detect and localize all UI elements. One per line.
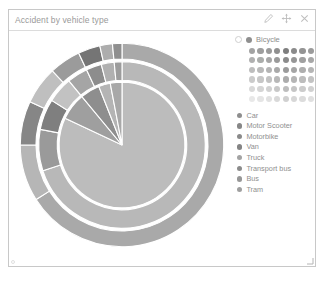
palette-swatch[interactable] bbox=[298, 46, 306, 56]
palette-swatch-dot bbox=[257, 86, 263, 92]
palette-swatch[interactable] bbox=[256, 75, 264, 85]
palette-swatch-dot bbox=[283, 48, 289, 54]
sunburst-segment[interactable] bbox=[114, 62, 122, 81]
sunburst-ring-inner bbox=[59, 82, 185, 208]
palette-swatch-dot bbox=[257, 48, 263, 54]
palette-swatch[interactable] bbox=[282, 56, 290, 66]
legend-item[interactable]: Bus bbox=[236, 174, 316, 185]
legend-item[interactable]: Car bbox=[236, 110, 316, 121]
legend-item[interactable]: Truck bbox=[236, 152, 316, 163]
color-palette-grid[interactable] bbox=[248, 46, 315, 104]
palette-swatch-dot bbox=[274, 67, 280, 73]
palette-swatch[interactable] bbox=[248, 94, 256, 104]
palette-swatch[interactable] bbox=[256, 65, 264, 75]
legend-item[interactable]: Tram bbox=[236, 184, 316, 195]
palette-swatch[interactable] bbox=[298, 56, 306, 66]
palette-swatch-dot bbox=[257, 96, 263, 102]
palette-swatch[interactable] bbox=[256, 94, 264, 104]
palette-swatch[interactable] bbox=[282, 94, 290, 104]
palette-swatch-dot bbox=[291, 67, 297, 73]
legend-item[interactable]: Motor Scooter bbox=[236, 121, 316, 132]
chart-side-rail: Bicycle CarMotor ScooterMotorbikeVanTruc… bbox=[235, 31, 316, 267]
palette-swatch-dot bbox=[299, 48, 305, 54]
palette-swatch[interactable] bbox=[256, 84, 264, 94]
palette-swatch-dot bbox=[266, 76, 272, 82]
legend-color-dot bbox=[237, 176, 242, 181]
palette-swatch-dot bbox=[249, 76, 255, 82]
palette-swatch-dot bbox=[283, 57, 289, 63]
palette-swatch[interactable] bbox=[282, 84, 290, 94]
palette-swatch[interactable] bbox=[248, 46, 256, 56]
palette-swatch[interactable] bbox=[256, 56, 264, 66]
palette-swatch-dot bbox=[266, 57, 272, 63]
palette-swatch[interactable] bbox=[248, 84, 256, 94]
edit-icon[interactable] bbox=[263, 13, 274, 24]
palette-swatch[interactable] bbox=[307, 46, 315, 56]
palette-swatch-dot bbox=[257, 76, 263, 82]
palette-swatch[interactable] bbox=[290, 94, 298, 104]
palette-swatch[interactable] bbox=[282, 65, 290, 75]
palette-swatch-dot bbox=[291, 76, 297, 82]
palette-swatch-dot bbox=[249, 86, 255, 92]
palette-swatch[interactable] bbox=[290, 75, 298, 85]
palette-swatch[interactable] bbox=[265, 75, 273, 85]
palette-swatch[interactable] bbox=[248, 56, 256, 66]
palette-swatch-dot bbox=[299, 86, 305, 92]
palette-swatch-dot bbox=[299, 76, 305, 82]
palette-swatch-dot bbox=[308, 86, 314, 92]
sunburst-segment[interactable] bbox=[112, 43, 122, 59]
palette-swatch[interactable] bbox=[298, 65, 306, 75]
sunburst-svg bbox=[11, 34, 233, 256]
legend-color-dot bbox=[237, 187, 242, 192]
legend-item[interactable]: Motorbike bbox=[236, 131, 316, 142]
move-icon[interactable] bbox=[281, 13, 292, 24]
palette-swatch-dot bbox=[257, 57, 263, 63]
palette-swatch[interactable] bbox=[282, 46, 290, 56]
palette-swatch[interactable] bbox=[307, 84, 315, 94]
palette-swatch[interactable] bbox=[265, 84, 273, 94]
palette-swatch[interactable] bbox=[273, 46, 281, 56]
palette-swatch-dot bbox=[308, 57, 314, 63]
resize-handle[interactable] bbox=[305, 256, 314, 265]
legend-item[interactable]: Transport bus bbox=[236, 163, 316, 174]
palette-swatch[interactable] bbox=[307, 65, 315, 75]
palette-swatch[interactable] bbox=[298, 94, 306, 104]
palette-swatch[interactable] bbox=[290, 56, 298, 66]
palette-swatch[interactable] bbox=[273, 94, 281, 104]
palette-swatch[interactable] bbox=[307, 75, 315, 85]
palette-swatch[interactable] bbox=[265, 94, 273, 104]
palette-swatch[interactable] bbox=[273, 84, 281, 94]
legend-color-dot bbox=[237, 155, 242, 160]
legend-item-label: Truck bbox=[246, 154, 264, 161]
palette-swatch-dot bbox=[249, 67, 255, 73]
palette-swatch-dot bbox=[283, 67, 289, 73]
palette-swatch-dot bbox=[249, 57, 255, 63]
sunburst-segment[interactable] bbox=[39, 129, 61, 170]
palette-swatch[interactable] bbox=[273, 65, 281, 75]
palette-swatch-dot bbox=[283, 76, 289, 82]
palette-swatch[interactable] bbox=[298, 84, 306, 94]
palette-swatch[interactable] bbox=[307, 94, 315, 104]
legend-item[interactable]: Van bbox=[236, 142, 316, 153]
palette-swatch[interactable] bbox=[290, 65, 298, 75]
selected-series-dot bbox=[246, 37, 252, 43]
palette-swatch-dot bbox=[308, 76, 314, 82]
sunburst-chart[interactable] bbox=[11, 34, 233, 256]
palette-swatch[interactable] bbox=[298, 75, 306, 85]
palette-swatch[interactable] bbox=[290, 84, 298, 94]
palette-swatch[interactable] bbox=[290, 46, 298, 56]
palette-swatch[interactable] bbox=[273, 56, 281, 66]
palette-swatch[interactable] bbox=[256, 46, 264, 56]
close-icon[interactable] bbox=[299, 13, 310, 24]
palette-swatch[interactable] bbox=[248, 65, 256, 75]
palette-swatch[interactable] bbox=[265, 46, 273, 56]
palette-swatch[interactable] bbox=[273, 75, 281, 85]
chart-legend: CarMotor ScooterMotorbikeVanTruckTranspo… bbox=[236, 110, 316, 195]
palette-swatch-dot bbox=[266, 67, 272, 73]
palette-swatch[interactable] bbox=[265, 65, 273, 75]
palette-swatch[interactable] bbox=[282, 75, 290, 85]
palette-swatch[interactable] bbox=[248, 75, 256, 85]
palette-swatch[interactable] bbox=[265, 56, 273, 66]
palette-swatch[interactable] bbox=[307, 56, 315, 66]
selected-series-row[interactable]: Bicycle bbox=[235, 34, 280, 45]
